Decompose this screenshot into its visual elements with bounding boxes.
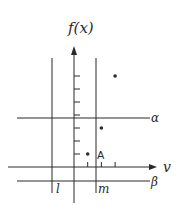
diagram-canvas: f(x) v α β l m A: [0, 0, 189, 211]
x-axis-arrowhead: [149, 164, 157, 170]
alpha-label: α: [151, 111, 159, 125]
x-axis-label: v: [163, 159, 171, 175]
m-label: m: [98, 182, 109, 196]
point-a-label: A: [97, 149, 105, 161]
data-point: [100, 126, 104, 130]
y-axis-label: f(x): [67, 19, 94, 37]
l-label: l: [56, 182, 60, 196]
point-a: [86, 152, 90, 156]
y-axis-arrowhead: [71, 46, 77, 55]
data-point: [113, 74, 117, 78]
beta-label: β: [150, 175, 158, 189]
